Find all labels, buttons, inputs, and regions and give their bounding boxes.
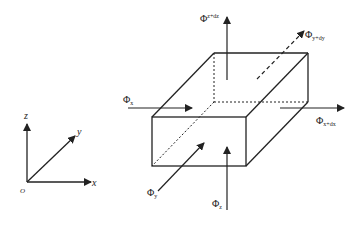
x-axis-label: x — [91, 177, 97, 188]
phi-y-dy-label: Φy+dy — [305, 29, 325, 41]
hidden-edge — [152, 102, 214, 166]
phi-z-dz-label: Φz+dz — [200, 13, 219, 24]
phi-z-label: Φz — [212, 198, 222, 210]
phi-y-arrow — [158, 143, 204, 191]
coordinate-axes: z x y O — [20, 110, 97, 195]
z-axis-label: z — [23, 110, 28, 121]
y-axis-label: y — [76, 126, 82, 137]
flux-labels: Φx Φx+dx Φy Φy+dy Φz Φz+dz — [123, 13, 336, 210]
phi-y-label: Φy — [147, 187, 157, 199]
y-axis — [27, 136, 75, 182]
origin-label: O — [20, 187, 25, 195]
control-volume-box — [152, 53, 308, 166]
phi-y-dy-arrow — [257, 31, 304, 79]
control-volume-diagram: z x y O Φx Φx+dx Φy — [0, 0, 363, 225]
flux-arrows — [128, 17, 344, 210]
front-face — [152, 117, 246, 166]
phi-x-dx-label: Φx+dx — [316, 115, 336, 127]
phi-x-label: Φx — [123, 94, 133, 106]
